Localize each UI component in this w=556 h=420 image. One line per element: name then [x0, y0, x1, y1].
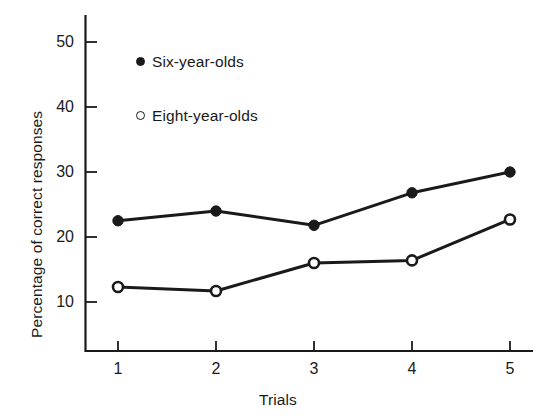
data-series-layer [113, 167, 515, 296]
x-tick-label-2: 2 [201, 361, 231, 377]
legend-item-six-year-olds: Six-year-olds [136, 53, 244, 70]
series-line [118, 172, 510, 225]
x-tick-label-1: 1 [103, 361, 133, 377]
x-tick-label-5: 5 [495, 361, 525, 377]
data-point-filled [309, 220, 319, 230]
x-tick-label-3: 3 [299, 361, 329, 377]
filled-circle-icon [136, 57, 145, 66]
data-point-open [407, 255, 417, 265]
chart-figure: Percentage of correct responses Trials 5… [0, 0, 556, 420]
data-point-open [211, 286, 221, 296]
y-tick-label-50: 50 [30, 34, 74, 50]
x-tick-label-4: 4 [397, 361, 427, 377]
data-point-filled [113, 216, 123, 226]
line-chart-plot [0, 0, 556, 420]
legend-item-label: Eight-year-olds [152, 108, 258, 124]
x-axis-title: Trials [0, 391, 556, 409]
y-tick-label-10: 10 [30, 294, 74, 310]
data-point-filled [407, 188, 417, 198]
legend-item-eight-year-olds: Eight-year-olds [136, 107, 258, 124]
data-point-filled [505, 167, 515, 177]
data-point-open [505, 214, 515, 224]
x-axis-ticks [118, 341, 510, 351]
series-six-year-olds [113, 167, 515, 231]
data-point-filled [211, 206, 221, 216]
open-circle-icon [136, 111, 145, 120]
y-tick-label-20: 20 [30, 229, 74, 245]
y-tick-label-40: 40 [30, 99, 74, 115]
legend-item-label: Six-year-olds [152, 54, 244, 70]
y-tick-label-30: 30 [30, 164, 74, 180]
y-axis-ticks [85, 42, 97, 302]
data-point-open [113, 282, 123, 292]
data-point-open [309, 258, 319, 268]
